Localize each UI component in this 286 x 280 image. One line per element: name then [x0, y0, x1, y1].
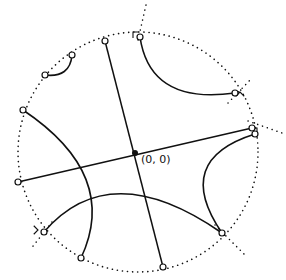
right-angle-markers	[30, 32, 257, 234]
endpoint-open-circle	[102, 38, 108, 44]
endpoint-open-circle	[41, 229, 47, 235]
origin-label: (0, 0)	[141, 153, 171, 166]
endpoint-open-circle	[249, 125, 255, 131]
arc-bottom	[44, 194, 222, 233]
endpoint-open-circle	[78, 255, 84, 261]
hyperbolic-diagram: (0, 0)	[0, 0, 286, 280]
endpoint-open-circle	[232, 90, 238, 96]
endpoint-open-circle	[69, 52, 75, 58]
endpoint-open-circle	[20, 107, 26, 113]
endpoint-open-circle	[252, 131, 258, 137]
endpoint-open-circle	[160, 264, 166, 270]
endpoint-open-circle	[137, 34, 143, 40]
right-angle-marker-icon	[30, 226, 38, 234]
arc-left-large	[23, 110, 92, 258]
tangent-line	[228, 78, 252, 103]
geodesic-arcs	[23, 37, 255, 258]
endpoint-open-circle	[42, 72, 48, 78]
arc-right	[203, 134, 255, 233]
arc-top-right	[140, 37, 235, 95]
endpoint-open-circle	[219, 230, 225, 236]
endpoint-open-circle	[15, 179, 21, 185]
origin-point	[132, 150, 138, 156]
